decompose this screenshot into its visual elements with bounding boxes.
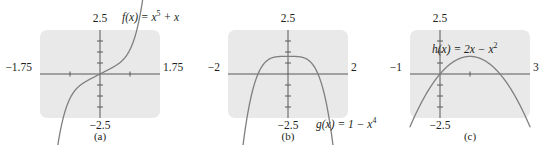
x-max-label-c: 3 [533, 62, 539, 74]
panel-b: 2.5 −2.5 −2 2 g(x) = 1 − x4 (b) [188, 0, 371, 145]
equation-label-a: f(x) = x5 + x [122, 12, 179, 24]
plot-svg-b [228, 30, 348, 118]
caption-a: (a) [94, 131, 106, 142]
y-max-label-a: 2.5 [93, 13, 107, 25]
x-max-label-a: 1.75 [163, 62, 183, 74]
caption-c: (c) [464, 131, 476, 142]
x-min-label-c: −1 [390, 62, 402, 74]
panel-a: 2.5 −2.5 −1.75 1.75 f(x) = x5 + x (a) [0, 0, 183, 145]
curve-c [410, 56, 530, 126]
y-max-label-b: 2.5 [281, 13, 295, 25]
panel-c: 2.5 −2.5 −1 3 h(x) = 2x − x2 (c) [370, 0, 549, 145]
caption-b: (b) [282, 131, 295, 142]
figure-three-polynomial-graphs: 2.5 −2.5 −1.75 1.75 f(x) = x5 + x (a) [0, 0, 549, 145]
x-min-label-a: −1.75 [5, 62, 32, 74]
x-min-label-b: −2 [208, 62, 220, 74]
plot-svg-a [40, 30, 160, 118]
plot-area-a [40, 30, 160, 118]
plot-area-b [228, 30, 348, 118]
y-max-label-c: 2.5 [433, 13, 447, 25]
equation-label-b: g(x) = 1 − x4 [316, 119, 376, 131]
y-min-label-c: −2.5 [430, 120, 451, 132]
x-max-label-b: 2 [351, 62, 357, 74]
equation-label-c: h(x) = 2x − x2 [432, 44, 497, 56]
